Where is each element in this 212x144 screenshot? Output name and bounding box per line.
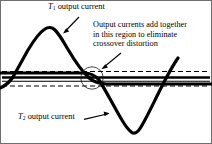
figure-container: T1 output current T2 output current Outp… (0, 0, 212, 144)
t1-symbol: T1 (48, 2, 56, 11)
crossover-annotation-line-3: crossover distortion (93, 39, 187, 49)
annotation-leader-arrow (101, 53, 121, 69)
t1-leader-arrow (63, 17, 79, 34)
t1-trace-label: T1 output current (48, 2, 105, 12)
crossover-annotation-line-2: in this region to eliminate (93, 30, 187, 40)
t2-symbol-letter: T (18, 112, 23, 121)
crossover-annotation-line-1: Output currents add together (93, 20, 187, 30)
t1-label-text: output current (56, 2, 105, 11)
t2-leader-arrow (84, 112, 110, 120)
t1-symbol-letter: T (48, 2, 53, 11)
t2-symbol: T2 (18, 112, 26, 121)
t2-label-text: output current (26, 112, 75, 121)
t2-trace-label: T2 output current (18, 112, 75, 122)
crossover-annotation: Output currents add together in this reg… (93, 20, 187, 49)
